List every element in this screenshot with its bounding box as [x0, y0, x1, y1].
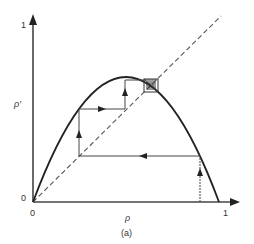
x-tick-0: 0: [30, 208, 35, 218]
cobweb: [76, 80, 203, 202]
arrow-up-icon: [122, 88, 128, 96]
y-axis-arrow-icon: [29, 14, 37, 25]
x-tick-1: 1: [223, 208, 228, 218]
y-axis-label: ρ′: [13, 99, 21, 109]
identity-line: [33, 16, 221, 202]
x-axis-label: ρ: [124, 213, 130, 223]
arrow-up-icon: [76, 130, 82, 138]
y-tick-0: 0: [21, 193, 26, 203]
cobweb-diagram: 1 0 0 1 ρ′ ρ (a): [0, 0, 254, 244]
y-tick-1: 1: [21, 20, 26, 30]
figure-caption: (a): [121, 228, 132, 238]
arrow-right-icon: [98, 106, 106, 112]
arrow-up-icon: [197, 168, 203, 176]
arrow-left-icon: [139, 153, 147, 159]
x-axis-arrow-icon: [230, 198, 240, 206]
